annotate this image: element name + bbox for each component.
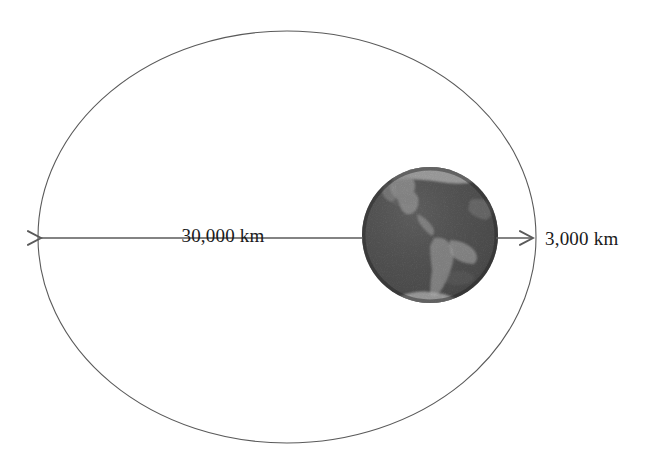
diagram-canvas: 30,000 km 3,000 km — [0, 0, 654, 467]
orbit-diagram: 30,000 km 3,000 km — [0, 0, 654, 467]
orbit-radius-label: 30,000 km — [181, 225, 264, 246]
earth-radius-label: 3,000 km — [545, 228, 618, 249]
